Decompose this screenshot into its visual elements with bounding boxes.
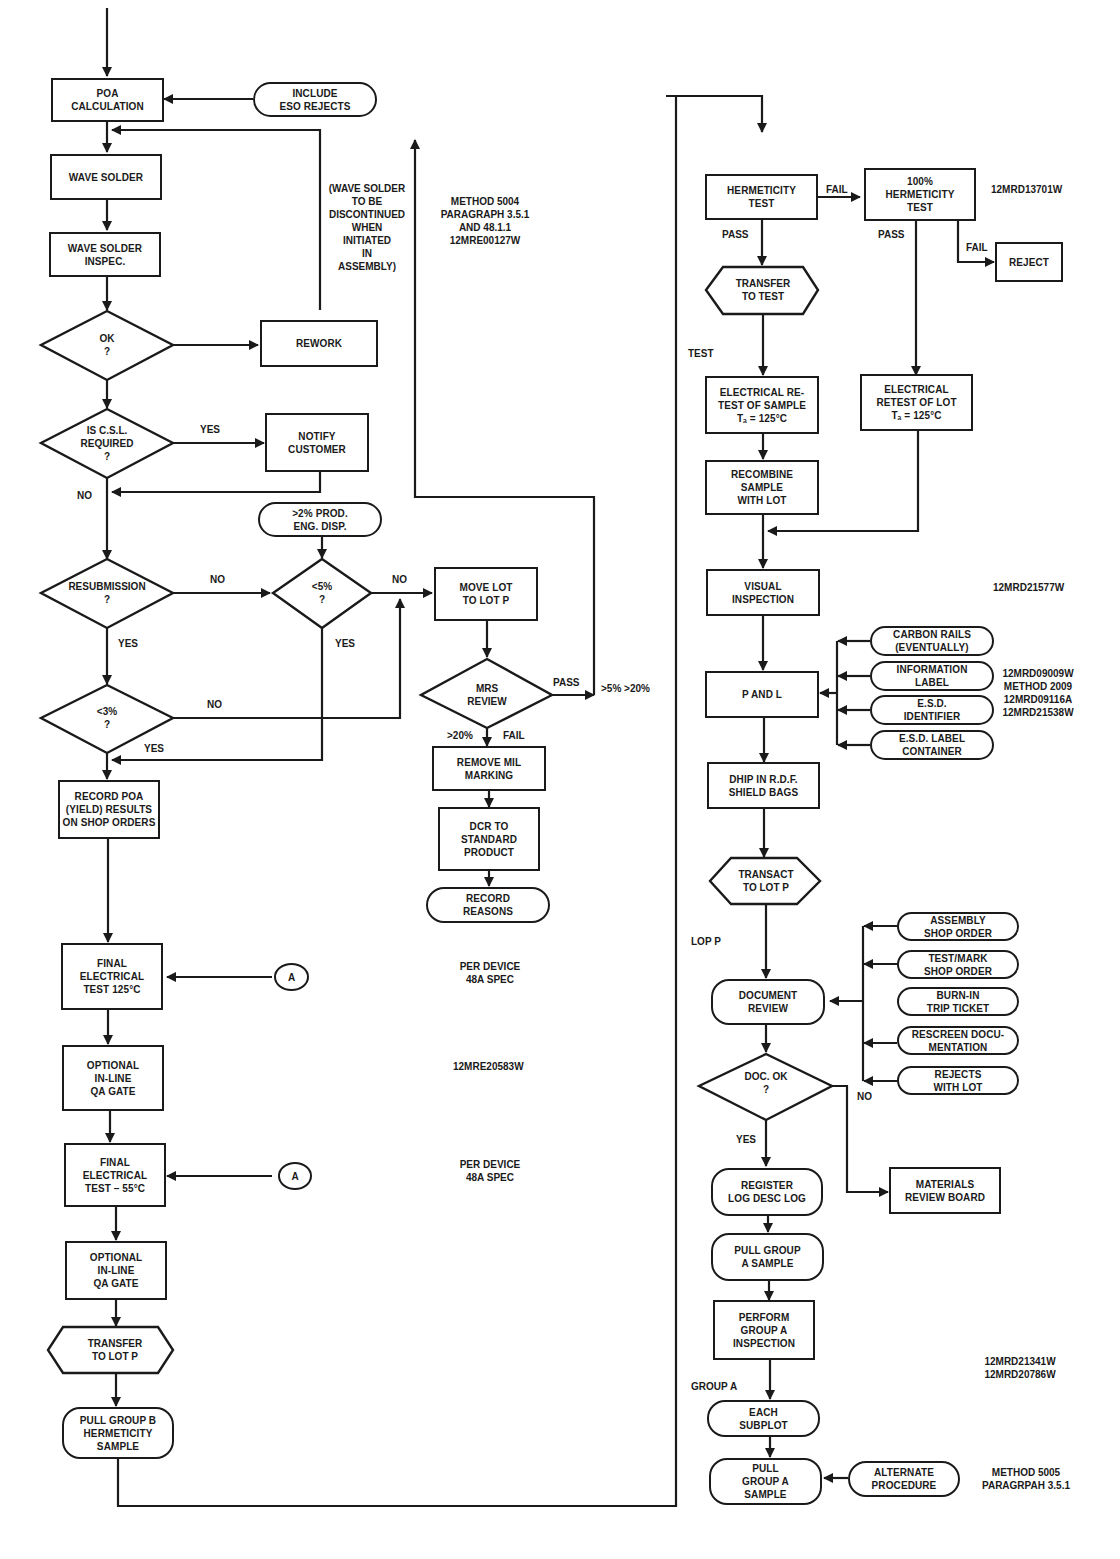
hermeticity-fail-label: FAIL <box>826 183 848 196</box>
materials-review-board-box: MATERIALS REVIEW BOARD <box>889 1167 1001 1214</box>
group-a-label: GROUP A <box>691 1380 737 1393</box>
dcr-standard-product-box: DCR TO STANDARD PRODUCT <box>438 807 540 871</box>
visual-inspection-box: VISUAL INSPECTION <box>706 569 820 616</box>
mrs-fail-label: FAIL <box>503 729 525 742</box>
lt5-no-label: NO <box>392 573 407 586</box>
final-electrical-test-55-box: FINAL ELECTRICAL TEST – 55°C <box>64 1143 166 1207</box>
notify-customer-box: NOTIFY CUSTOMER <box>265 413 369 472</box>
flowchart-connectors <box>0 0 1120 1559</box>
transfer-lot-p-label: TRANSFER TO LOT P <box>60 1330 170 1370</box>
pull-group-a-sample-terminal: PULL GROUP A SAMPLE <box>711 1233 824 1281</box>
doc-ok-yes-label: YES <box>736 1133 756 1146</box>
remove-mil-marking-box: REMOVE MIL MARKING <box>432 746 546 791</box>
assembly-shop-order-terminal: ASSEMBLY SHOP ORDER <box>897 912 1019 941</box>
resubmission-yes-label: YES <box>118 637 138 650</box>
csl-decision-label: IS C.S.L. REQUIRED ? <box>50 422 164 464</box>
electrical-retest-sample-box: ELECTRICAL RE- TEST OF SAMPLE Tₐ = 125°C <box>705 376 819 434</box>
connector-a-2: A <box>278 1162 312 1190</box>
doc-ref-12mrd21577w: 12MRD21577W <box>993 581 1064 594</box>
optional-qa-gate-2-box: OPTIONAL IN-LINE QA GATE <box>65 1241 167 1300</box>
per-device-spec-2: PER DEVICE 48A SPEC <box>450 1158 530 1184</box>
document-review-terminal: DOCUMENT REVIEW <box>711 979 825 1025</box>
csl-no-label: NO <box>77 489 92 502</box>
pull-group-a-sample-2-terminal: PULL GROUP A SAMPLE <box>709 1458 822 1505</box>
method-5005-note: METHOD 5005 PARAGRPAH 3.5.1 <box>976 1466 1076 1492</box>
mrs-review-label: MRS REVIEW <box>440 675 534 715</box>
register-log-terminal: REGISTER LOG DESC LOG <box>711 1168 823 1216</box>
final-electrical-test-125-box: FINAL ELECTRICAL TEST 125°C <box>61 943 163 1010</box>
mrs-pass-range-label: >5% >20% <box>601 682 650 695</box>
reject-box: REJECT <box>995 242 1063 282</box>
wave-solder-note: (WAVE SOLDER TO BE DISCONTINUED WHEN INI… <box>322 182 412 273</box>
rejects-with-lot-terminal: REJECTS WITH LOT <box>897 1066 1019 1095</box>
electrical-retest-lot-box: ELECTRICAL RETEST OF LOT Tₐ = 125°C <box>860 374 973 431</box>
move-lot-box: MOVE LOT TO LOT P <box>434 567 538 621</box>
wave-solder-box: WAVE SOLDER <box>50 154 162 200</box>
recombine-box: RECOMBINE SAMPLE WITH LOT <box>705 460 819 515</box>
rescreen-documentation-terminal: RESCREEN DOCU- MENTATION <box>897 1026 1019 1055</box>
each-subplot-terminal: EACH SUBPLOT <box>707 1400 820 1437</box>
resubmission-decision-label: RESUBMISSION ? <box>50 578 164 608</box>
carbon-rails-terminal: CARBON RAILS (EVENTUALLY) <box>870 626 994 656</box>
csl-yes-label: YES <box>200 423 220 436</box>
transact-lot-p-label: TRANSACT TO LOT P <box>718 861 814 901</box>
lop-p-label: LOP P <box>691 935 721 948</box>
information-label-terminal: INFORMATION LABEL <box>870 661 994 691</box>
method-5004-note: METHOD 5004 PARAGRAPH 3.5.1 AND 48.1.1 1… <box>430 195 540 247</box>
connector-a-1: A <box>274 963 309 991</box>
mrs-fail-range-label: >20% <box>447 729 473 742</box>
hermeticity-100-box: 100% HERMETICITY TEST <box>864 168 976 221</box>
lt5-decision-label: <5% ? <box>290 578 354 608</box>
doc-ok-decision-label: DOC. OK ? <box>720 1068 812 1098</box>
esd-identifier-terminal: E.S.D. IDENTIFIER <box>870 695 994 725</box>
lt3-yes-label: YES <box>144 742 164 755</box>
hermeticity-test-box: HERMETICITY TEST <box>705 174 818 220</box>
per-device-spec-1: PER DEVICE 48A SPEC <box>450 960 530 986</box>
doc-ok-no-label: NO <box>857 1090 872 1103</box>
lt3-decision-label: <3% ? <box>60 703 154 733</box>
group-a-doc-refs: 12MRD21341W 12MRD20786W <box>980 1355 1060 1381</box>
mrs-pass-label: PASS <box>553 676 580 689</box>
hermeticity-100-pass-label: PASS <box>878 228 905 241</box>
include-eso-rejects-terminal: INCLUDE ESO REJECTS <box>253 82 377 117</box>
doc-ref-12mrd13701w: 12MRD13701W <box>991 183 1062 196</box>
transfer-to-test-label: TRANSFER TO TEST <box>715 270 811 310</box>
record-reasons-terminal: RECORD REASONS <box>426 887 550 923</box>
hermeticity-100-fail-label: FAIL <box>966 241 988 254</box>
esd-label-container-terminal: E.S.D. LABEL CONTAINER <box>870 730 994 760</box>
hermeticity-pass-label: PASS <box>722 228 749 241</box>
p-and-l-doc-refs: 12MRD09009W METHOD 2009 12MRD09116A 12MR… <box>998 667 1078 719</box>
wave-solder-inspec-box: WAVE SOLDER INSPEC. <box>49 232 161 277</box>
perform-group-a-inspection-box: PERFORM GROUP A INSPECTION <box>713 1300 815 1360</box>
alternate-procedure-terminal: ALTERNATE PROCEDURE <box>848 1461 960 1497</box>
poa-calculation-box: POA CALCULATION <box>51 78 164 122</box>
lt3-no-label: NO <box>207 698 222 711</box>
test-label: TEST <box>688 347 714 360</box>
doc-ref-12mre20583w: 12MRE20583W <box>453 1060 524 1073</box>
rework-box: REWORK <box>260 320 378 367</box>
optional-qa-gate-1-box: OPTIONAL IN-LINE QA GATE <box>62 1045 164 1111</box>
burn-in-trip-ticket-terminal: BURN-IN TRIP TICKET <box>897 987 1019 1016</box>
prod-eng-disp-terminal: >2% PROD. ENG. DISP. <box>258 502 382 537</box>
record-poa-box: RECORD POA (YIELD) RESULTS ON SHOP ORDER… <box>58 780 160 839</box>
pull-group-b-terminal: PULL GROUP B HERMETICITY SAMPLE <box>62 1407 174 1459</box>
p-and-l-box: P AND L <box>705 671 819 718</box>
test-mark-shop-order-terminal: TEST/MARK SHOP ORDER <box>897 950 1019 979</box>
lt5-yes-label: YES <box>335 637 355 650</box>
resubmission-no-label: NO <box>210 573 225 586</box>
ship-shield-bags-box: DHIP IN R.D.F. SHIELD BAGS <box>707 762 820 809</box>
ok-decision-label: OK ? <box>60 325 154 365</box>
